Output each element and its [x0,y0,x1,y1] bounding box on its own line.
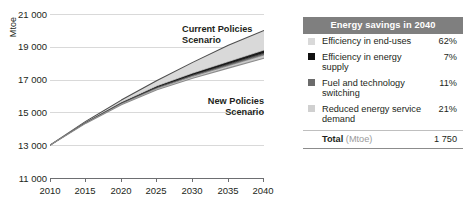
legend-label: Efficiency in energy supply [322,52,431,73]
x-tick-label: 2035 [208,185,248,196]
legend-label: Efficiency in end-uses [322,36,431,47]
legend-value: 7% [431,52,457,63]
x-axis-line [50,178,264,179]
legend-row: Fuel and technology switching 11% [303,75,463,101]
x-tick-mark [85,178,86,182]
x-tick-label: 2020 [101,185,141,196]
legend-total-row: Total (Mtoe) 1 750 [303,130,463,149]
legend-swatch-icon [308,38,315,45]
legend-total-text: Total [322,134,343,144]
y-tick-label: 13 000 [1,140,47,151]
legend-swatch-icon [308,105,315,112]
x-tick-mark [121,178,122,182]
x-tick-mark [50,178,51,182]
legend-header: Energy savings in 2040 [303,17,463,34]
y-tick-label: 15 000 [1,107,47,118]
annotation-new-policies: New Policies Scenario [172,96,264,118]
legend-swatch-icon [308,53,315,60]
x-tick-label: 2030 [172,185,212,196]
annotation-current-policies: Current Policies Scenario [182,24,252,46]
y-tick-label: 19 000 [1,41,47,52]
x-tick-label: 2015 [65,185,105,196]
y-tick-label: 11 000 [1,173,47,184]
y-tick-label: 17 000 [1,74,47,85]
legend-label: Fuel and technology switching [322,78,431,99]
x-tick-label: 2010 [30,185,70,196]
legend-value: 11% [431,78,457,89]
legend-swatch-icon [308,79,315,86]
x-tick-mark [228,178,229,182]
x-tick-mark [192,178,193,182]
chart-panel: Mtoe 21 000 19 000 17 000 15 000 13 000 … [0,0,300,224]
x-tick-label: 2025 [136,185,176,196]
legend-total-label: Total (Mtoe) [322,134,434,144]
legend-label: Reduced energy service demand [322,104,431,125]
x-tick-mark [263,178,264,182]
y-tick-label: 21 000 [1,9,47,20]
legend-value: 21% [431,104,457,115]
energy-savings-legend-table: Energy savings in 2040 Efficiency in end… [303,17,463,149]
legend-row: Efficiency in end-uses 62% [303,34,463,50]
legend-row: Efficiency in energy supply 7% [303,49,463,75]
legend-total-value: 1 750 [434,134,457,144]
legend-value: 62% [431,36,457,47]
legend-row: Reduced energy service demand 21% [303,101,463,127]
legend-total-unit: (Mtoe) [346,134,373,144]
x-tick-mark [156,178,157,182]
figure-root: Mtoe 21 000 19 000 17 000 15 000 13 000 … [0,0,473,224]
x-tick-label: 2040 [243,185,283,196]
